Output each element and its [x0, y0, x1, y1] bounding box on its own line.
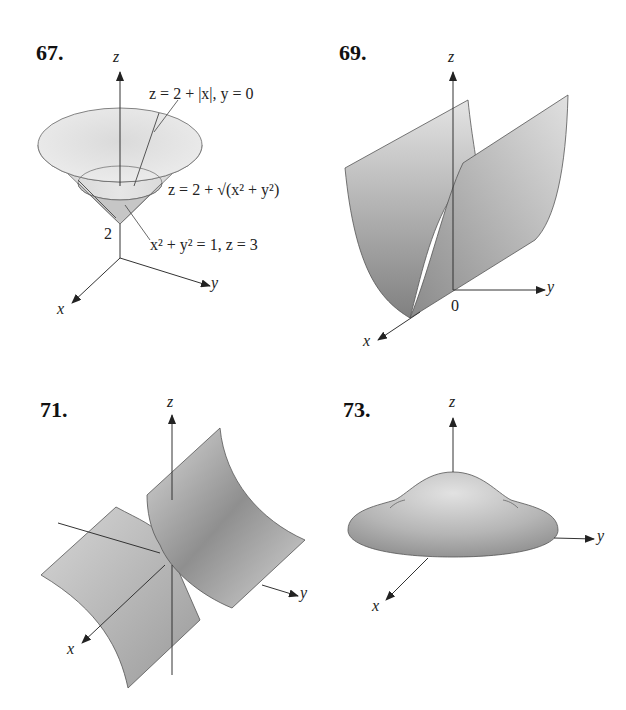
y-axis: [120, 258, 210, 286]
x-axis-label: x: [57, 300, 64, 318]
y-axis-label: y: [300, 584, 307, 602]
z-axis-label: z: [167, 393, 173, 411]
bump-surface: [348, 472, 558, 557]
leader-line-3: [125, 205, 150, 240]
figure-71-graphic: [41, 415, 305, 688]
y-axis: [262, 585, 298, 596]
figure-number: 69.: [339, 40, 367, 66]
x-axis-label: x: [372, 597, 379, 615]
z-axis-label: z: [448, 48, 454, 66]
figure-canvas: [0, 0, 626, 710]
y-axis: [554, 538, 594, 539]
y-axis-label: y: [597, 527, 604, 545]
figure-number: 73.: [343, 397, 371, 423]
origin-label: 0: [451, 297, 459, 315]
x-axis: [72, 258, 120, 303]
x-axis: [378, 312, 420, 340]
z-axis-label: z: [449, 393, 455, 411]
annotation-circle: x² + y² = 1, z = 3: [150, 236, 258, 254]
annotation-trace: z = 2 + |x|, y = 0: [149, 85, 254, 103]
z-tick-label: 2: [104, 225, 112, 243]
figure-number: 71.: [40, 397, 68, 423]
z-axis-label: z: [113, 48, 119, 66]
annotation-cone: z = 2 + √(x² + y²): [168, 181, 279, 199]
x-axis-label: x: [67, 640, 74, 658]
figure-73-graphic: [348, 418, 594, 600]
x-axis: [386, 558, 428, 600]
y-axis-label: y: [547, 278, 554, 296]
figure-number: 67.: [36, 40, 64, 66]
y-axis-label: y: [211, 274, 218, 292]
x-axis-label: x: [363, 332, 370, 350]
